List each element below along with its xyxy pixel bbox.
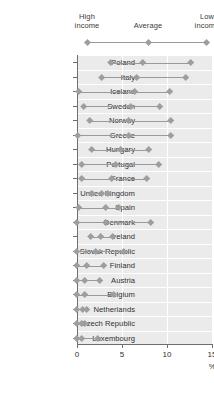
y-axis-tick: [73, 193, 77, 194]
legend-label-high-income: High income: [64, 12, 110, 30]
y-axis-tick: [73, 236, 77, 237]
table-row[interactable]: Luxembourg: [0, 331, 135, 347]
x-axis-label-10: 10: [156, 350, 178, 360]
y-axis-tick: [73, 62, 77, 63]
chart-legend: High income Average Low income: [0, 0, 214, 52]
chart-container: High income Average Low income PolandIta…: [0, 0, 214, 395]
legend-low-line2: income: [195, 21, 214, 30]
x-axis-label-15: 15: [201, 350, 214, 360]
range-connector: [83, 106, 160, 107]
range-connector: [79, 208, 119, 209]
legend-label-low-income: Low income: [184, 12, 214, 30]
x-axis-label-5: 5: [111, 350, 133, 360]
range-connector: [110, 63, 190, 64]
x-axis-unit-label: %: [201, 362, 214, 372]
range-connector: [77, 222, 151, 223]
y-axis-tick: [73, 77, 77, 78]
y-axis-tick: [73, 106, 77, 107]
range-connector: [77, 251, 124, 252]
legend-low-line1: Low: [200, 12, 214, 21]
x-axis-label-0: 0: [66, 350, 88, 360]
x-axis-tick: [167, 344, 168, 348]
y-axis-tick: [73, 164, 77, 165]
range-connector: [101, 77, 186, 78]
legend-average-line1: Average: [134, 21, 163, 30]
legend-label-average: Average: [125, 21, 171, 30]
legend-high-line2: income: [75, 21, 100, 30]
y-axis-tick: [73, 178, 77, 179]
legend-diamond-icon-low: [203, 39, 210, 46]
y-axis-tick: [73, 120, 77, 121]
range-connector: [82, 164, 159, 165]
legend-diamond-icon-average: [145, 39, 152, 46]
legend-high-line1: High: [79, 12, 95, 21]
y-axis-tick: [73, 149, 77, 150]
x-axis-tick: [77, 344, 78, 348]
x-axis-tick: [212, 344, 213, 348]
range-connector: [79, 92, 170, 93]
x-axis-tick: [122, 344, 123, 348]
legend-diamond-icon-high: [84, 39, 91, 46]
